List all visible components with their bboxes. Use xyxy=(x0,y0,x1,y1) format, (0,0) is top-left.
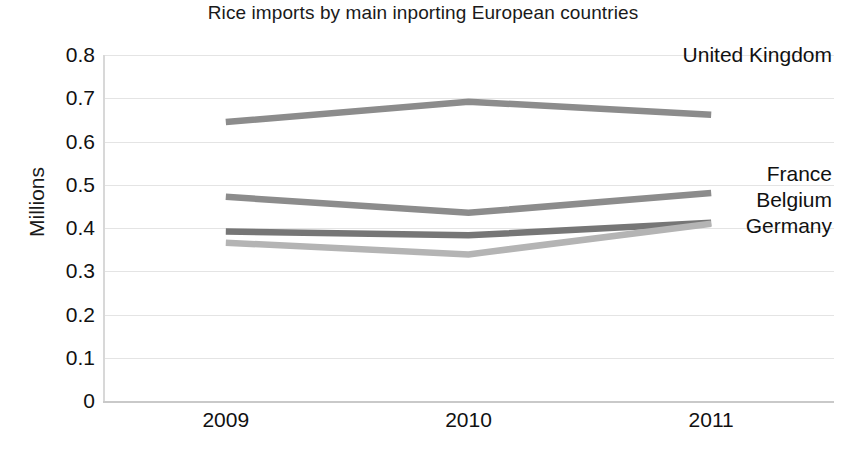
x-tick-label: 2009 xyxy=(202,408,249,432)
x-axis-line xyxy=(103,401,834,403)
y-tick-label: 0.1 xyxy=(11,346,95,370)
y-tick-label: 0.4 xyxy=(11,216,95,240)
line-chart: Rice imports by main inporting European … xyxy=(0,0,846,469)
y-tick-label: 0.7 xyxy=(11,86,95,110)
y-tick-label: 0.5 xyxy=(11,173,95,197)
y-tick-label: 0.3 xyxy=(11,259,95,283)
series-line-united-kingdom xyxy=(226,102,711,122)
x-axis-tick-labels: 200920102011 xyxy=(103,408,834,442)
y-tick-label: 0 xyxy=(11,389,95,413)
y-tick-label: 0.2 xyxy=(11,303,95,327)
y-tick-label: 0.8 xyxy=(11,43,95,67)
y-axis-tick-labels: 0.80.70.60.50.40.30.20.10 xyxy=(0,55,95,401)
y-tick-label: 0.6 xyxy=(11,130,95,154)
plot-area xyxy=(103,55,834,401)
x-tick-label: 2010 xyxy=(445,408,492,432)
chart-title: Rice imports by main inporting European … xyxy=(0,2,846,24)
series-lines xyxy=(103,55,834,401)
series-line-france xyxy=(226,193,711,213)
x-tick-label: 2011 xyxy=(689,408,734,432)
